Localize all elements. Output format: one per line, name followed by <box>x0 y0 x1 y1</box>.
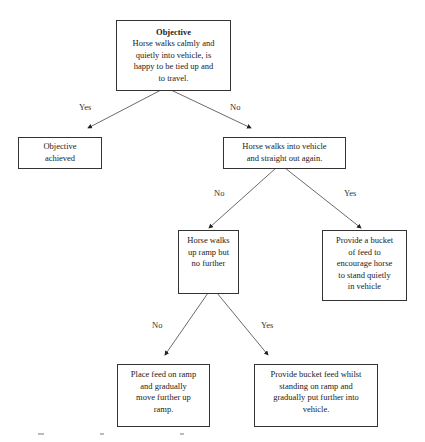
node-line: gradually put further into <box>273 392 359 404</box>
node-walks-in-and-out: Horse walks into vehicle and straight ou… <box>223 137 346 169</box>
node-line: Horse walks into vehicle <box>242 141 326 153</box>
node-line: achieved <box>45 153 75 165</box>
node-line: Provide bucket feed whilst <box>271 369 362 381</box>
node-line: Objective <box>43 141 76 153</box>
node-line: in vehicle <box>348 281 381 293</box>
edge-label-no: No <box>230 102 240 112</box>
edge-label-yes: Yes <box>261 320 273 330</box>
node-line: ramp. <box>154 404 174 416</box>
node-line: vehicle. <box>303 404 330 416</box>
node-line: Place feed on ramp <box>131 369 196 381</box>
cutoff-text-fragment <box>100 433 104 435</box>
node-line: encourage horse <box>337 258 392 270</box>
objective-line: happy to be tied up and <box>134 61 214 73</box>
edge-label-yes: Yes <box>344 188 356 198</box>
objective-line: to travel. <box>158 73 188 85</box>
objective-title: Objective <box>156 27 191 39</box>
node-line: up ramp but <box>188 247 229 259</box>
edge-upramp-no <box>165 293 208 355</box>
node-line: and straight out again. <box>247 153 323 165</box>
edge-walksout-yes <box>285 168 361 228</box>
node-line: move further up <box>136 392 191 404</box>
node-line: Provide a bucket <box>336 235 393 247</box>
edge-walksout-no <box>209 168 276 228</box>
edge-label-no: No <box>214 188 224 198</box>
node-bucket-in-vehicle: Provide a bucket of feed to encourage ho… <box>322 230 407 301</box>
objective-line: Horse walks calmly and <box>133 38 215 50</box>
node-line: no further <box>192 258 226 270</box>
node-line: of feed to <box>348 247 381 259</box>
node-objective-achieved: Objective achieved <box>18 137 102 169</box>
cutoff-text-fragment <box>38 433 44 435</box>
objective-line: quietly into vehicle, is <box>136 50 212 62</box>
node-feed-on-ramp: Place feed on ramp and gradually move fu… <box>117 364 210 427</box>
cutoff-text-fragment <box>180 433 184 435</box>
node-bucket-on-ramp: Provide bucket feed whilst standing on r… <box>254 364 378 427</box>
edge-label-yes: Yes <box>79 102 91 112</box>
node-line: standing on ramp and <box>279 381 352 393</box>
edge-objective-yes <box>88 90 161 128</box>
node-up-ramp-no-further: Horse walks up ramp but no further <box>178 230 239 294</box>
edge-label-no: No <box>152 320 162 330</box>
node-line: Horse walks <box>187 235 229 247</box>
node-line: and gradually <box>140 381 187 393</box>
node-line: to stand quietly <box>338 270 390 282</box>
node-objective: Objective Horse walks calmly and quietly… <box>116 20 231 91</box>
